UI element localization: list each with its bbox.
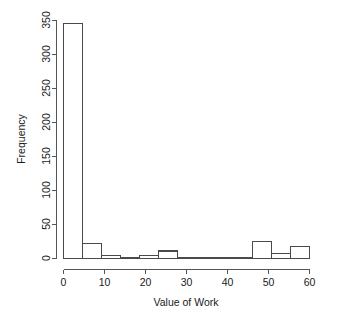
- bar-bin-35-40: [196, 257, 215, 258]
- y-tick-label-300: 300: [40, 45, 52, 63]
- bar-bin-0-5: [64, 24, 83, 259]
- bar-bin-25-30: [158, 251, 177, 258]
- bar-bin-60-65: [291, 247, 310, 259]
- y-axis: 0 50 100 150 200 250 300 350 Frequency: [15, 11, 57, 261]
- bar-bin-50-55: [253, 242, 272, 259]
- y-tick-label-150: 150: [40, 147, 52, 165]
- bar-bin-30-35: [177, 257, 196, 258]
- x-axis: 0 10 20 30 40 50 60 Value of Work: [61, 270, 316, 309]
- y-tick-label-50: 50: [40, 218, 52, 230]
- y-tick-label-250: 250: [40, 79, 52, 97]
- y-tick-label-350: 350: [40, 11, 52, 29]
- y-tick-label-200: 200: [40, 113, 52, 131]
- bar-bin-5-10: [82, 244, 101, 259]
- y-tick-label-0: 0: [40, 255, 52, 261]
- bar-bin-15-20: [120, 257, 139, 258]
- bar-bin-45-50: [234, 258, 253, 259]
- bars-group: [64, 24, 310, 259]
- x-tick-label-40: 40: [222, 276, 234, 288]
- y-tick-label-100: 100: [40, 181, 52, 199]
- x-tick-label-10: 10: [99, 276, 111, 288]
- x-tick-label-60: 60: [304, 276, 316, 288]
- x-tick-label-0: 0: [61, 276, 67, 288]
- x-tick-label-50: 50: [263, 276, 275, 288]
- x-tick-label-30: 30: [181, 276, 193, 288]
- bar-bin-55-60: [272, 254, 291, 259]
- bar-bin-20-25: [139, 255, 158, 258]
- x-tick-label-20: 20: [140, 276, 152, 288]
- bar-bin-40-45: [215, 258, 234, 259]
- bar-bin-10-15: [101, 256, 120, 259]
- y-axis-title: Frequency: [15, 113, 27, 163]
- histogram-plot: 0 50 100 150 200 250 300 350 Frequency: [0, 0, 345, 317]
- x-axis-title: Value of Work: [154, 296, 220, 308]
